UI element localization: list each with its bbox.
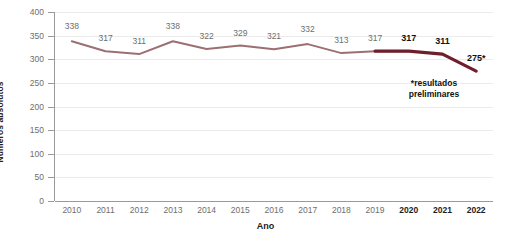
y-tick-label: 200 — [4, 102, 44, 112]
gridline — [55, 107, 493, 108]
gridline — [55, 59, 493, 60]
gridline — [55, 130, 493, 131]
x-tick-label-2014: 2014 — [197, 205, 216, 215]
x-tick-label-2010: 2010 — [62, 205, 81, 215]
y-tick-label: 250 — [4, 78, 44, 88]
data-label-2018: 313 — [334, 35, 348, 45]
data-label-2015: 329 — [233, 28, 247, 38]
y-axis-line — [54, 12, 55, 201]
x-axis-title: Ano — [0, 221, 507, 231]
data-label-2010: 338 — [65, 21, 79, 31]
y-tick-mark — [48, 177, 54, 178]
y-tick-label: 300 — [4, 54, 44, 64]
data-label-2021: 311 — [435, 36, 450, 46]
x-tick-label-2016: 2016 — [265, 205, 284, 215]
y-tick-label: 400 — [4, 7, 44, 17]
data-label-2012: 311 — [132, 36, 146, 46]
data-label-2022: 275* — [467, 53, 486, 63]
data-label-2016: 321 — [267, 31, 281, 41]
x-tick-label-2018: 2018 — [332, 205, 351, 215]
x-tick-label-2012: 2012 — [130, 205, 149, 215]
x-tick-label-2017: 2017 — [298, 205, 317, 215]
y-tick-mark — [48, 130, 54, 131]
y-tick-mark — [48, 59, 54, 60]
x-tick-label-2019: 2019 — [366, 205, 385, 215]
x-tick-label-2015: 2015 — [231, 205, 250, 215]
series-line-base — [72, 41, 409, 54]
x-tick-label-2013: 2013 — [163, 205, 182, 215]
data-label-2020: 317 — [401, 33, 416, 43]
x-tick-label-2021: 2021 — [433, 205, 452, 215]
y-tick-label: 350 — [4, 31, 44, 41]
y-tick-label: 150 — [4, 125, 44, 135]
annotation-line-1: *resultados — [409, 78, 460, 89]
y-tick-mark — [48, 201, 54, 202]
y-tick-mark — [48, 83, 54, 84]
preliminary-results-annotation: *resultados preliminares — [409, 78, 460, 101]
gridline — [55, 177, 493, 178]
y-tick-label: 0 — [4, 196, 44, 206]
data-label-2013: 338 — [166, 21, 180, 31]
y-tick-mark — [48, 12, 54, 13]
x-axis-line — [55, 201, 493, 202]
gridline — [55, 12, 493, 13]
x-tick-label-2022: 2022 — [467, 205, 486, 215]
data-label-2014: 322 — [200, 31, 214, 41]
y-tick-mark — [48, 36, 54, 37]
y-tick-mark — [48, 107, 54, 108]
data-label-2019: 317 — [368, 33, 382, 43]
data-label-2017: 332 — [301, 24, 315, 34]
gridline — [55, 154, 493, 155]
series-line-highlight — [375, 51, 476, 71]
annotation-line-2: preliminares — [409, 89, 460, 100]
line-chart: Números absolutos 0501001502002503003504… — [0, 0, 507, 244]
y-tick-label: 100 — [4, 149, 44, 159]
y-tick-label: 50 — [4, 172, 44, 182]
x-tick-label-2011: 2011 — [96, 205, 114, 215]
data-label-2011: 317 — [98, 33, 112, 43]
y-tick-mark — [48, 154, 54, 155]
x-tick-label-2020: 2020 — [399, 205, 418, 215]
